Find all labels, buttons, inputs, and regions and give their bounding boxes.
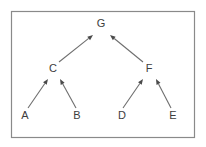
diagram-frame xyxy=(12,12,195,138)
node-label-c: C xyxy=(49,62,57,74)
node-label-e: E xyxy=(169,109,176,121)
node-label-f: F xyxy=(146,62,153,74)
graph-diagram: GCFABDE xyxy=(0,0,206,147)
node-label-g: G xyxy=(97,17,106,29)
node-label-d: D xyxy=(118,109,126,121)
diagram-canvas: GCFABDE xyxy=(0,0,206,147)
node-label-a: A xyxy=(21,109,29,121)
node-label-b: B xyxy=(73,109,80,121)
